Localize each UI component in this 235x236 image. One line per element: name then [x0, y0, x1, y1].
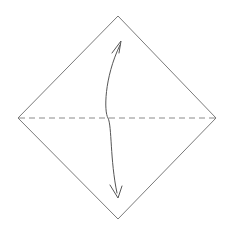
figure-canvas: Origami fold diagram A square sheet show… [0, 0, 235, 236]
origami-diagram: Origami fold diagram A square sheet show… [0, 0, 235, 236]
